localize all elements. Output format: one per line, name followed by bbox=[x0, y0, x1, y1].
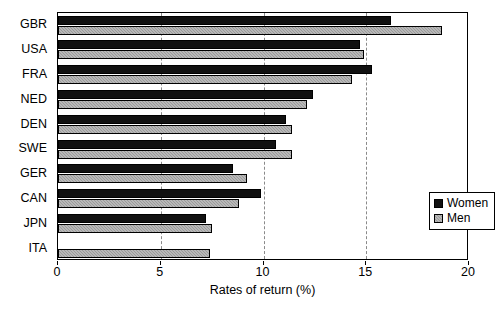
bar-group-swe bbox=[58, 140, 467, 165]
bar-group-usa bbox=[58, 40, 467, 65]
x-tick-label-15: 15 bbox=[358, 265, 372, 279]
bar-men-jpn bbox=[58, 224, 212, 233]
bar-men-fra bbox=[58, 75, 352, 84]
bar-men-gbr bbox=[58, 26, 442, 35]
y-axis-label-gbr: GBR bbox=[20, 18, 47, 30]
bar-group-ned bbox=[58, 90, 467, 115]
bar-women-den bbox=[58, 115, 286, 124]
legend-swatch-women-icon bbox=[434, 199, 443, 208]
y-axis-label-usa: USA bbox=[21, 43, 47, 55]
x-tick-label-20: 20 bbox=[461, 265, 475, 279]
legend-swatch-men-icon bbox=[434, 214, 443, 223]
legend-label-women: Women bbox=[447, 197, 488, 210]
y-axis-label-ned: NED bbox=[21, 93, 47, 105]
bar-group-ita bbox=[58, 239, 467, 264]
bar-men-ned bbox=[58, 100, 307, 109]
y-axis-label-ita: ITA bbox=[28, 242, 47, 254]
bar-women-ger bbox=[58, 164, 233, 173]
bar-men-usa bbox=[58, 50, 364, 59]
bar-group-jpn bbox=[58, 214, 467, 239]
y-axis-labels: GBRUSAFRANEDDENSWEGERCANJPNITA bbox=[0, 12, 52, 260]
legend-item-men: Men bbox=[434, 211, 488, 226]
bar-group-ger bbox=[58, 164, 467, 189]
bar-women-ned bbox=[58, 90, 313, 99]
y-axis-label-can: CAN bbox=[21, 192, 47, 204]
chart-legend: Women Men bbox=[429, 192, 495, 230]
bar-group-gbr bbox=[58, 16, 467, 41]
bar-group-fra bbox=[58, 65, 467, 90]
y-axis-label-ger: GER bbox=[20, 167, 47, 179]
bar-women-fra bbox=[58, 65, 372, 74]
bar-women-jpn bbox=[58, 214, 206, 223]
y-axis-label-swe: SWE bbox=[19, 142, 47, 154]
x-tick-label-5: 5 bbox=[156, 265, 163, 279]
x-axis-title: Rates of return (%) bbox=[57, 283, 468, 297]
x-tick-label-10: 10 bbox=[256, 265, 270, 279]
bars-layer bbox=[58, 13, 467, 259]
bar-women-usa bbox=[58, 40, 360, 49]
bar-men-den bbox=[58, 125, 292, 134]
y-axis-label-jpn: JPN bbox=[23, 217, 47, 229]
bar-men-ita bbox=[58, 249, 210, 258]
y-axis-label-fra: FRA bbox=[22, 68, 47, 80]
bar-group-den bbox=[58, 115, 467, 140]
legend-label-men: Men bbox=[447, 212, 470, 225]
bar-women-swe bbox=[58, 140, 276, 149]
bar-women-can bbox=[58, 189, 261, 198]
x-axis-tick-labels: 05101520 bbox=[57, 265, 468, 281]
plot-area: Women Men bbox=[57, 12, 468, 260]
x-tick-label-0: 0 bbox=[54, 265, 61, 279]
legend-item-women: Women bbox=[434, 196, 488, 211]
bar-men-can bbox=[58, 199, 239, 208]
bar-men-swe bbox=[58, 150, 292, 159]
bar-women-gbr bbox=[58, 16, 391, 25]
bar-men-ger bbox=[58, 174, 247, 183]
bar-group-can bbox=[58, 189, 467, 214]
y-axis-label-den: DEN bbox=[21, 118, 47, 130]
